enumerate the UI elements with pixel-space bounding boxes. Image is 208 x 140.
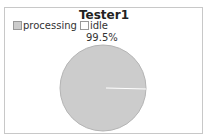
pie-slice-processing [60, 45, 146, 131]
pie-chart [0, 0, 208, 140]
